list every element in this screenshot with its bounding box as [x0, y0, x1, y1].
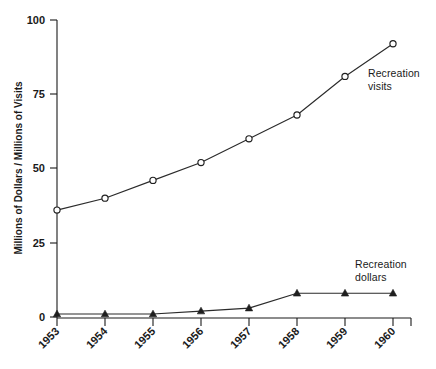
data-point-marker-circle	[54, 207, 60, 213]
x-tick-label-1953: 1953	[36, 325, 62, 351]
scan-artifact-text	[0, 358, 436, 369]
data-point-marker-circle	[198, 159, 204, 165]
series-line-0	[57, 44, 393, 210]
y-axis-ticks	[50, 20, 57, 317]
data-series-layer	[53, 41, 396, 317]
x-tick-label-1957: 1957	[228, 325, 254, 351]
x-tick-label-1954: 1954	[84, 324, 110, 350]
x-tick-label-1955: 1955	[132, 325, 158, 351]
y-tick-label-100: 100	[27, 14, 45, 26]
y-tick-label-75: 75	[33, 88, 45, 100]
y-tick-label-0: 0	[39, 311, 45, 323]
x-tick-label-1958: 1958	[276, 325, 302, 351]
data-point-marker-circle	[102, 195, 108, 201]
data-point-marker-circle	[294, 112, 300, 118]
data-point-marker-circle	[390, 41, 396, 47]
y-axis-title: Millions of Dollars / Millions of Visits	[13, 81, 24, 255]
x-axis-ticks	[57, 318, 411, 326]
y-tick-label-50: 50	[33, 162, 45, 174]
x-tick-label-1960: 1960	[372, 325, 398, 351]
y-tick-label-25: 25	[33, 237, 45, 249]
series-label-recreation-dollars: Recreation dollars	[355, 258, 407, 283]
data-point-marker-circle	[342, 73, 348, 79]
series-recreation-visits	[54, 41, 396, 214]
x-tick-label-1959: 1959	[324, 325, 350, 351]
series-line-1	[57, 293, 393, 314]
chart-figure: 100 75 50 25 0 Millions of Dollars / Mil…	[0, 0, 436, 369]
data-point-marker-circle	[246, 136, 252, 142]
chart-canvas: 100 75 50 25 0 Millions of Dollars / Mil…	[0, 0, 436, 369]
x-tick-label-1956: 1956	[180, 325, 206, 351]
series-recreation-dollars	[53, 289, 396, 316]
series-label-recreation-visits: Recreation visits	[368, 67, 420, 92]
data-point-marker-circle	[150, 177, 156, 183]
